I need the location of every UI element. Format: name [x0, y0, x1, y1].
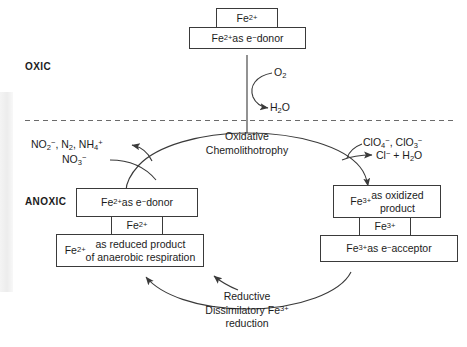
- zone-label-oxic: OXIC: [25, 61, 51, 72]
- reduced-product-feed-arrow: [214, 276, 238, 290]
- pathway-label-oxidative: OxidativeChemolithotrophy: [172, 130, 322, 157]
- node-fe2-tag: Fe2+: [111, 216, 163, 235]
- node-fe3-oxidized-product: Fe3+ as oxidizedproduct: [333, 185, 441, 218]
- node-fe2-electron-donor-oxic: Fe2+ as e− donor: [189, 27, 306, 49]
- zone-label-anoxic: ANOXIC: [25, 196, 66, 207]
- label-nitrogen-species: NO2−, N2, NH4+: [31, 138, 103, 152]
- node-fe2-tag-top: Fe2+: [216, 8, 278, 28]
- label-chloride-water: Cl− + H2O: [376, 149, 422, 163]
- node-fe3-electron-acceptor: Fe3+ as e− acceptor: [320, 235, 458, 262]
- label-oxygen: O2: [274, 66, 286, 80]
- label-water: H2O: [270, 101, 290, 115]
- node-fe2-electron-donor-anoxic: Fe2+ as e− donor: [76, 188, 198, 217]
- nitrogen-products-arrow: [132, 145, 152, 161]
- pathway-label-reductive: ReductiveDissimilatory Fe3+reduction: [172, 290, 322, 331]
- nitrate-input-line: [110, 160, 156, 180]
- oxygen-to-water-arrow: [252, 73, 272, 108]
- label-nitrate: NO3−: [62, 153, 86, 167]
- node-fe2-reduced-product: Fe2+ as reduced productof anaerobic resp…: [56, 234, 204, 267]
- node-fe3-tag: Fe3+: [359, 217, 411, 236]
